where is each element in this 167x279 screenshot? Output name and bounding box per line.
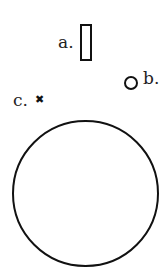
- x-mark-icon: ✖: [35, 94, 44, 105]
- label-c: c.: [13, 92, 28, 109]
- label-b: b.: [143, 70, 159, 87]
- small-circle-shape-b: [124, 76, 138, 90]
- large-circle-shape: [12, 120, 159, 267]
- label-a: a.: [58, 34, 74, 51]
- rectangle-shape-a: [80, 24, 92, 61]
